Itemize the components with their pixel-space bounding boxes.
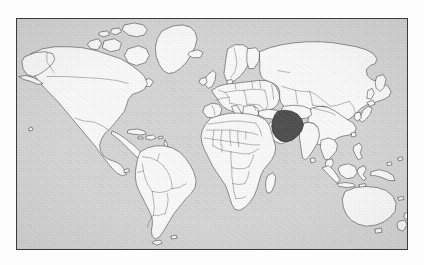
world-map-svg: [17, 19, 407, 249]
map-frame: [16, 18, 408, 250]
new-caledonia: [398, 196, 404, 200]
taiwan: [351, 132, 356, 137]
pacific-islet-a: [387, 162, 392, 166]
jamaica: [138, 137, 143, 139]
baffin-island: [124, 46, 149, 66]
tasmania: [375, 228, 382, 233]
pacific-islet-b: [398, 157, 403, 161]
sri-lanka: [310, 158, 315, 163]
map-screenshot: [0, 0, 424, 265]
falkland-islands: [171, 235, 177, 239]
galapagos: [124, 169, 129, 173]
java: [337, 183, 355, 188]
hawaii: [29, 127, 33, 131]
